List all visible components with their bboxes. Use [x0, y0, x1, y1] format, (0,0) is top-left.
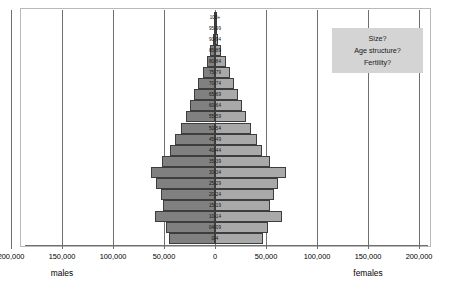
- pyramid-row: 30-34: [25, 167, 453, 178]
- axis-label-females: females: [353, 268, 382, 278]
- pyramid-row: 35-39: [25, 156, 453, 167]
- pyramid-row: 60-64: [25, 100, 453, 111]
- annotation-line-2: Age structure?: [354, 46, 401, 55]
- age-group-label: 15-19: [192, 200, 238, 211]
- pyramid-row: 70-74: [25, 78, 453, 89]
- age-group-label: 55-59: [192, 111, 238, 122]
- age-group-label: 100+: [192, 12, 238, 23]
- age-group-label: 35-39: [192, 156, 238, 167]
- gridline-200,000: [11, 10, 12, 245]
- age-group-label: 20-24: [192, 189, 238, 200]
- tick-0: [215, 245, 216, 249]
- pyramid-row: 40-44: [25, 145, 453, 156]
- pyramid-row: 04-09: [25, 222, 453, 233]
- pyramid-row: 45-49: [25, 134, 453, 145]
- pyramid-row: 100+: [25, 12, 453, 23]
- age-group-label: 75-79: [192, 67, 238, 78]
- age-group-label: 0-4: [192, 233, 238, 244]
- age-group-label: 80-84: [192, 56, 238, 67]
- age-group-label: 60-64: [192, 100, 238, 111]
- age-group-label: 85-89: [192, 45, 238, 56]
- population-pyramid-chart: 100+95-9990-9485-8980-8475-7970-7465-696…: [0, 0, 453, 288]
- age-group-label: 50-54: [192, 123, 238, 134]
- age-group-label: 40-44: [192, 145, 238, 156]
- annotation-line-3: Fertility?: [364, 58, 391, 67]
- pyramid-row: 50-54: [25, 123, 453, 134]
- x-tick-label: 150,000: [49, 252, 76, 261]
- tick-200,000: [419, 245, 420, 249]
- x-tick-label: 150,000: [355, 252, 382, 261]
- tick-50,000: [266, 245, 267, 249]
- age-group-label: 95-99: [192, 23, 238, 34]
- x-tick-label: 50,000: [153, 252, 176, 261]
- x-tick-label: 100,000: [100, 252, 127, 261]
- pyramid-row: 10-14: [25, 211, 453, 222]
- tick-100,000: [317, 245, 318, 249]
- age-group-label: 04-09: [192, 222, 238, 233]
- tick-150,000: [368, 245, 369, 249]
- tick-50,000: [164, 245, 165, 249]
- x-tick-label: 0: [213, 252, 217, 261]
- annotation-line-1: Size?: [369, 34, 387, 43]
- age-group-label: 30-34: [192, 167, 238, 178]
- x-tick-label: 100,000: [304, 252, 331, 261]
- age-group-label: 25-29: [192, 178, 238, 189]
- pyramid-row: 0-4: [25, 233, 453, 244]
- tick-200,000: [11, 245, 12, 249]
- pyramid-row: 25-29: [25, 178, 453, 189]
- pyramid-row: 55-59: [25, 111, 453, 122]
- pyramid-row: 20-24: [25, 189, 453, 200]
- age-group-label: 70-74: [192, 78, 238, 89]
- age-group-label: 65-69: [192, 89, 238, 100]
- annotation-callout: Size? Age structure? Fertility?: [332, 28, 423, 73]
- x-tick-label: 200,000: [0, 252, 24, 261]
- age-group-label: 10-14: [192, 211, 238, 222]
- tick-100,000: [113, 245, 114, 249]
- x-tick-label: 50,000: [255, 252, 278, 261]
- pyramid-row: 65-69: [25, 89, 453, 100]
- tick-150,000: [62, 245, 63, 249]
- x-tick-label: 200,000: [406, 252, 433, 261]
- pyramid-row: 15-19: [25, 200, 453, 211]
- axis-label-males: males: [51, 268, 73, 278]
- age-group-label: 45-49: [192, 134, 238, 145]
- age-group-label: 90-94: [192, 34, 238, 45]
